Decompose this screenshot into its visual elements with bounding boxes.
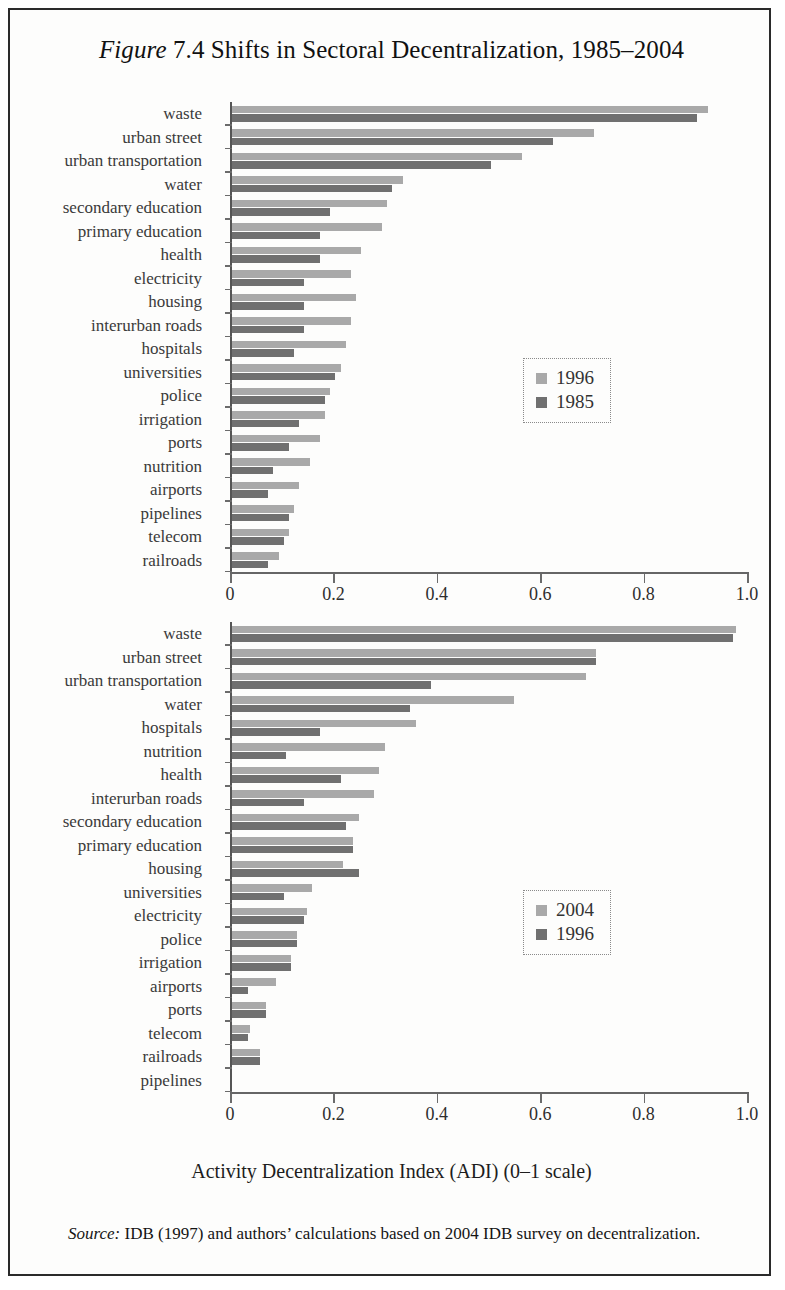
y-axis-tick [225,383,232,385]
bar-row: interurban roads [232,314,749,338]
bar-2004 [232,626,736,634]
bar-1996 [232,552,279,560]
category-label: primary education [0,220,202,244]
bar-row: electricity [232,267,749,291]
x-axis-tick-label: 1.0 [736,584,759,605]
bar-row: water [232,173,749,197]
y-axis-tick [225,715,232,717]
bar-1996 [232,916,304,924]
bar-1996 [232,1057,260,1065]
bar-row: nutrition [232,740,749,764]
bar-1985 [232,138,553,146]
bar-row: urban street [232,646,749,670]
source-text: IDB (1997) and authors’ calculations bas… [120,1224,700,1243]
x-axis-tick-label: 0.4 [426,1104,449,1125]
bar-2004 [232,837,353,845]
bar-2004 [232,1049,260,1057]
category-label: urban transportation [0,149,202,173]
x-axis-tick-label: 0 [226,1104,235,1125]
x-axis-tick [644,1094,646,1103]
x-axis-tick-label: 1.0 [736,1104,759,1125]
legend-top: 19961985 [523,358,611,423]
x-axis-tick-label: 0.8 [632,1104,655,1125]
bar-row: urban transportation [232,669,749,693]
x-axis-tick [230,1094,232,1103]
bar-row: airports [232,478,749,502]
bar-1996 [232,681,431,689]
category-label: hospitals [0,716,202,740]
category-label: water [0,693,202,717]
bar-1985 [232,373,335,381]
bar-1985 [232,326,304,334]
y-axis-tick [225,171,232,173]
legend-swatch-icon [536,905,547,916]
bar-1996 [232,775,341,783]
figure-frame: Figure 7.4 Shifts in Sectoral Decentrali… [8,8,771,1276]
bar-row: water [232,693,749,717]
y-axis-tick [225,124,232,126]
bar-1996 [232,822,346,830]
y-axis-tick [225,1020,232,1022]
y-axis-tick [225,453,232,455]
bar-row: ports [232,998,749,1022]
category-label: airports [0,478,202,502]
category-label: railroads [0,1045,202,1069]
bar-1996 [232,223,382,231]
chart-panel-top: wasteurban streeturban transportationwat… [10,102,773,602]
bar-1985 [232,255,320,263]
category-label: electricity [0,267,202,291]
legend-row: 1985 [536,390,594,414]
bar-row: universities [232,361,749,385]
source-label: Source: [68,1224,120,1243]
x-axis-top: 00.20.40.60.81.0 [230,572,747,612]
bar-row: primary education [232,220,749,244]
bar-2004 [232,790,374,798]
x-axis-tick [644,574,646,583]
bar-1996 [232,846,353,854]
bar-1996 [232,364,341,372]
bar-1985 [232,232,320,240]
category-label: railroads [0,549,202,573]
legend-label: 1996 [556,367,594,389]
legend-row: 1996 [536,922,594,946]
category-label: urban transportation [0,669,202,693]
bar-2004 [232,955,291,963]
bar-1996 [232,106,708,114]
bar-1996 [232,705,410,713]
x-axis-tick-label: 0.2 [322,584,345,605]
x-axis-tick-label: 0.4 [426,584,449,605]
bar-1985 [232,396,325,404]
y-axis-tick [225,644,232,646]
y-axis-tick [225,289,232,291]
bar-1996 [232,987,248,995]
bar-2004 [232,978,276,986]
y-axis-tick [225,691,232,693]
bar-1985 [232,420,299,428]
bar-row: pipelines [232,1069,749,1093]
y-axis-tick [225,809,232,811]
bar-2004 [232,1002,266,1010]
bar-row: interurban roads [232,787,749,811]
category-label: police [0,928,202,952]
y-axis-tick [225,1067,232,1069]
y-axis-tick [225,477,232,479]
bar-1996 [232,458,310,466]
category-label: police [0,384,202,408]
category-label: universities [0,881,202,905]
legend-row: 2004 [536,898,594,922]
y-axis-tick [225,547,232,549]
x-axis-tick-label: 0 [226,584,235,605]
bar-1996 [232,153,522,161]
category-label: nutrition [0,455,202,479]
bar-1996 [232,1010,266,1018]
bar-1996 [232,963,291,971]
bar-row: railroads [232,1045,749,1069]
bar-1996 [232,658,596,666]
bar-1985 [232,561,268,569]
bar-1985 [232,302,304,310]
bar-1985 [232,279,304,287]
bar-row: health [232,763,749,787]
bar-row: secondary education [232,196,749,220]
y-axis-tick [225,218,232,220]
x-axis-tick [747,574,749,583]
